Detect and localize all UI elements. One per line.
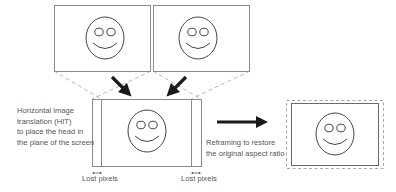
- projection-line: [191, 71, 250, 99]
- projection-lines: [54, 71, 250, 99]
- reframed-result-frame: [287, 101, 384, 169]
- hit-result-frame: [93, 100, 202, 167]
- hit-description: Horizontal image translation (HIT) to pl…: [17, 106, 94, 148]
- hit-description-line: Horizontal image: [17, 106, 94, 117]
- hit-diagram: [0, 0, 396, 192]
- arrow-down-left-icon: [171, 77, 186, 92]
- right-view-frame: [154, 6, 250, 72]
- reframing-description-line: the original aspect ratio: [206, 149, 285, 160]
- reframing-description: Reframing to restore the original aspect…: [206, 138, 285, 159]
- reframing-description-line: Reframing to restore: [206, 138, 285, 149]
- reframing-arrow: [217, 116, 268, 128]
- hit-description-line: translation (HIT): [17, 117, 94, 128]
- left-view-frame: [55, 6, 151, 72]
- hit-description-line: the plane of the screen: [17, 138, 94, 149]
- projection-line: [54, 71, 101, 99]
- lost-pixels-right-label: Lost pixels: [181, 174, 217, 185]
- hit-description-line: to place the head in: [17, 127, 94, 138]
- lost-pixels-left-label: Lost pixels: [82, 174, 118, 185]
- arrow-down-right-icon: [112, 77, 127, 92]
